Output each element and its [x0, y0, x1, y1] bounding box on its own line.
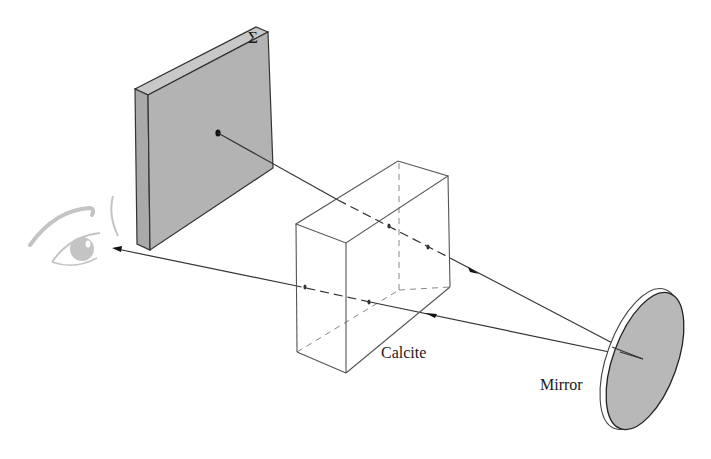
screen-front-face: [148, 32, 273, 250]
mirror-label: Mirror: [540, 376, 583, 394]
screen-label: Σ: [248, 28, 258, 48]
ray-mark: [303, 284, 306, 289]
incident-ray: [218, 133, 643, 359]
calcite-label: Calcite: [381, 344, 426, 362]
arrow-toward-eye-icon: [425, 313, 437, 318]
ray-mark: [387, 223, 390, 228]
eye-cornea-arc: [111, 196, 118, 236]
reflected-ray: [117, 249, 643, 359]
pupil-highlight: [86, 241, 91, 248]
arrow-at-eye-icon: [112, 246, 122, 252]
eyelid-lower: [52, 258, 97, 265]
calcite-mirror-diagram: [0, 0, 711, 459]
iris: [70, 237, 94, 261]
ray-mark: [426, 244, 429, 249]
eye-icon: [30, 196, 118, 265]
ray-mark: [367, 299, 370, 304]
mirror: [584, 278, 700, 440]
calcite-top-face: [296, 161, 448, 243]
screen: [135, 27, 273, 250]
calcite-crystal: [296, 161, 450, 373]
